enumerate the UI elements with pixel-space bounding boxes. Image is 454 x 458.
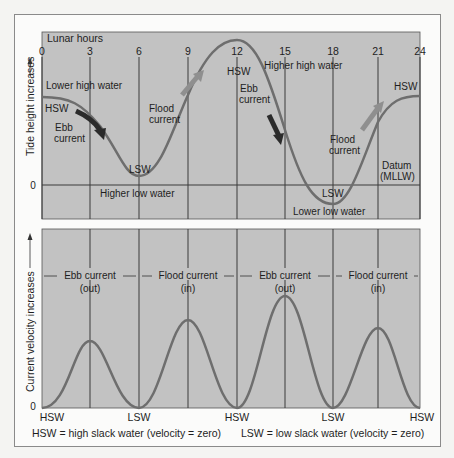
svg-text:Lower high water: Lower high water	[46, 80, 123, 91]
svg-text:15: 15	[279, 45, 291, 57]
svg-text:Lower low water: Lower low water	[293, 206, 366, 217]
svg-text:Flood: Flood	[330, 134, 355, 145]
svg-text:HSW: HSW	[45, 103, 69, 114]
svg-text:current: current	[239, 94, 270, 105]
slack-labels: HSW LSW HSW LSW HSW	[40, 411, 435, 423]
legend-lsw: LSW = low slack water (velocity = zero)	[241, 427, 424, 439]
svg-text:Ebb: Ebb	[55, 122, 73, 133]
svg-text:Ebb current: Ebb current	[259, 270, 311, 281]
svg-text:LSW: LSW	[128, 411, 151, 423]
svg-text:3: 3	[87, 45, 93, 57]
svg-text:Current velocity increases: Current velocity increases	[24, 271, 36, 392]
svg-text:(out): (out)	[275, 283, 296, 294]
svg-text:current: current	[149, 114, 180, 125]
velocity-y-axis-title: Current velocity increases	[24, 233, 36, 392]
svg-text:(out): (out)	[80, 283, 101, 294]
svg-text:Flood: Flood	[149, 103, 174, 114]
velocity-plot-area	[42, 229, 420, 408]
svg-text:HSW: HSW	[410, 411, 435, 423]
svg-text:Higher high water: Higher high water	[264, 60, 343, 71]
svg-text:(in): (in)	[371, 283, 385, 294]
svg-text:LSW: LSW	[322, 188, 344, 199]
svg-text:(in): (in)	[181, 283, 195, 294]
svg-text:24: 24	[414, 45, 426, 57]
svg-text:HSW: HSW	[40, 411, 65, 423]
svg-text:current: current	[54, 133, 85, 144]
svg-text:Datum: Datum	[382, 160, 411, 171]
svg-text:Flood current: Flood current	[159, 270, 218, 281]
svg-text:Ebb current: Ebb current	[64, 270, 116, 281]
svg-text:0: 0	[39, 45, 45, 57]
svg-text:LSW: LSW	[322, 411, 345, 423]
velocity-y-zero: 0	[30, 401, 36, 412]
svg-text:(MLLW): (MLLW)	[380, 171, 415, 182]
svg-text:12: 12	[231, 45, 243, 57]
svg-text:current: current	[329, 145, 360, 156]
tide-y-zero: 0	[30, 180, 36, 191]
svg-text:21: 21	[372, 45, 384, 57]
svg-text:18: 18	[327, 45, 339, 57]
svg-text:Ebb: Ebb	[240, 83, 258, 94]
legend-hsw: HSW = high slack water (velocity = zero)	[32, 427, 221, 439]
svg-text:Higher low water: Higher low water	[100, 188, 175, 199]
tide-diagram: Lunar hours 0 3 6 9 12 15 18 21 24 Lower…	[0, 0, 454, 458]
svg-text:HSW: HSW	[225, 411, 250, 423]
svg-text:6: 6	[136, 45, 142, 57]
tide-y-axis-title: Tide height increases	[24, 57, 36, 156]
svg-text:LSW: LSW	[129, 164, 151, 175]
x-axis-title: Lunar hours	[47, 32, 103, 44]
svg-text:Flood current: Flood current	[349, 270, 408, 281]
svg-text:HSW: HSW	[394, 81, 418, 92]
svg-text:HSW: HSW	[227, 66, 251, 77]
svg-text:9: 9	[185, 45, 191, 57]
